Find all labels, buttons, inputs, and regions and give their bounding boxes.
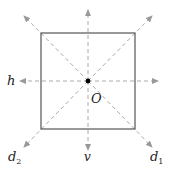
- label-d2: d2: [8, 150, 21, 166]
- axis-d2: [24, 81, 88, 147]
- axis-d1: [24, 16, 88, 81]
- symmetry-diagram: [0, 0, 170, 173]
- label-v: v: [84, 151, 91, 163]
- label-o: O: [91, 92, 102, 105]
- label-d1: d1: [150, 150, 163, 166]
- axis-d2: [88, 16, 152, 81]
- center-point: [86, 79, 91, 84]
- label-h: h: [7, 74, 15, 87]
